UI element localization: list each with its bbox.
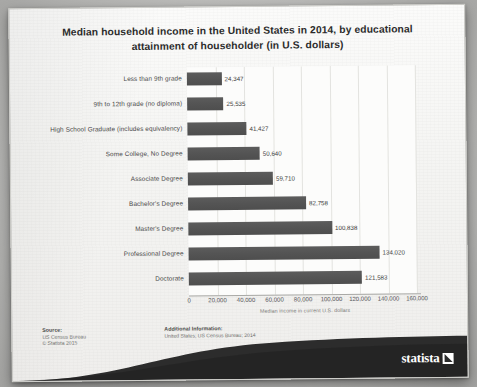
bar-value-label: 100,838 bbox=[332, 221, 357, 234]
bar-value-label: 24,347 bbox=[222, 72, 244, 85]
x-tick-label: 20,000 bbox=[208, 297, 226, 303]
x-tick-label: 120,000 bbox=[349, 296, 371, 302]
bar bbox=[188, 147, 260, 161]
x-tick-label: 80,000 bbox=[294, 296, 312, 302]
bar bbox=[189, 271, 362, 286]
bar bbox=[188, 172, 273, 186]
bar-value-label: 25,535 bbox=[223, 97, 245, 110]
source-heading: Source: bbox=[42, 327, 62, 333]
x-tick-label: 140,000 bbox=[378, 295, 400, 301]
additional-info-heading: Additional Information: bbox=[164, 325, 222, 332]
x-tick-label: 60,000 bbox=[265, 297, 283, 303]
category-label: 9th to 12th grade (no diploma) bbox=[34, 95, 182, 114]
category-label: Bachelor's Degree bbox=[35, 195, 183, 214]
x-tick-label: 40,000 bbox=[237, 297, 255, 303]
bar-value-label: 41,427 bbox=[246, 122, 268, 135]
category-label: Master's Degree bbox=[35, 220, 183, 239]
category-label: Professional Degree bbox=[35, 245, 183, 264]
category-label: High School Graduate (includes equivalen… bbox=[34, 120, 182, 139]
statista-mark-icon bbox=[443, 352, 454, 363]
chart-title: Median household income in the United St… bbox=[37, 21, 437, 55]
bar-value-label: 50,640 bbox=[260, 147, 282, 160]
category-label: Some College, No Degree bbox=[35, 145, 183, 164]
brand-banner: statista bbox=[12, 333, 467, 381]
bar-value-label: 82,758 bbox=[306, 196, 328, 209]
bar bbox=[189, 246, 380, 261]
bar bbox=[188, 196, 306, 210]
bar-value-label: 121,583 bbox=[362, 271, 387, 284]
x-tick-label: 100,000 bbox=[321, 296, 343, 302]
category-label: Doctorate bbox=[36, 270, 184, 289]
swoosh-shape bbox=[12, 333, 467, 381]
bar-chart: Less than 9th grade24,3479th to 12th gra… bbox=[34, 65, 444, 307]
infographic-sheet: Median household income in the United St… bbox=[8, 4, 469, 382]
bar bbox=[187, 72, 222, 85]
statista-logo: statista bbox=[401, 350, 453, 366]
bar-value-label: 59,710 bbox=[273, 171, 295, 184]
x-tick-label: 0 bbox=[187, 297, 190, 303]
x-tick-label: 160,000 bbox=[406, 295, 428, 301]
bar-value-label: 134,020 bbox=[379, 245, 404, 258]
bar bbox=[187, 97, 223, 110]
bar bbox=[187, 122, 246, 136]
category-label: Less than 9th grade bbox=[34, 70, 182, 89]
bar bbox=[188, 221, 332, 235]
statista-wordmark: statista bbox=[401, 350, 439, 366]
x-axis-label: Median income in current U.S. dollars bbox=[189, 306, 421, 314]
category-label: Associate Degree bbox=[35, 170, 183, 189]
photo-backdrop: Median household income in the United St… bbox=[0, 0, 477, 387]
